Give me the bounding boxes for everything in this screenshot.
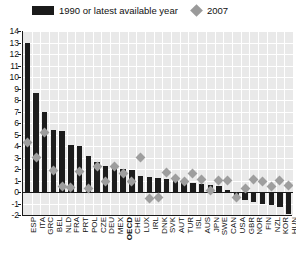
y-tick-mark — [18, 100, 21, 101]
gridline-horizontal — [23, 123, 293, 124]
y-tick-mark — [18, 66, 21, 67]
chart-bar — [199, 184, 204, 192]
gridline-vertical — [276, 31, 277, 215]
chart-bar — [269, 192, 274, 205]
y-tick-mark — [18, 192, 21, 193]
y-tick-mark — [18, 77, 21, 78]
y-tick-mark — [18, 89, 21, 90]
chart-bar — [138, 176, 143, 192]
y-tick-mark — [18, 204, 21, 205]
legend-label-1990: 1990 or latest available year — [59, 5, 178, 16]
chart-bar — [251, 192, 256, 202]
x-tick-label-irl: IRL — [152, 217, 160, 229]
plot-frame — [22, 31, 293, 215]
legend-bar-swatch-icon — [32, 6, 54, 15]
gridline-horizontal — [23, 54, 293, 55]
x-tick-label-aus: AUS — [204, 217, 212, 233]
gridline-horizontal — [23, 43, 293, 44]
gridline-vertical — [232, 31, 233, 215]
legend-entry-1990: 1990 or latest available year — [32, 3, 178, 17]
gridline-horizontal — [23, 31, 293, 32]
x-axis: ESPITAGRCBELNLDFRAPRTPOLCZEDEUMEXOECDCHE… — [22, 217, 292, 257]
y-tick-mark — [18, 123, 21, 124]
chart-legend: 1990 or latest available year 2007 — [0, 0, 296, 22]
gridline-vertical — [258, 31, 259, 215]
y-tick-mark — [18, 158, 21, 159]
chart-bar — [51, 130, 56, 192]
chart-bar — [42, 112, 47, 193]
gridline-horizontal — [23, 77, 293, 78]
y-tick-mark — [18, 43, 21, 44]
x-tick-label-svk: SVK — [169, 217, 177, 233]
x-tick-label-prt: PRT — [82, 217, 90, 233]
chart-bar — [147, 177, 152, 192]
x-tick-label-usa: USA — [239, 217, 247, 233]
gridline-horizontal — [23, 66, 293, 67]
chart-bar — [155, 178, 160, 192]
x-tick-label-pol: POL — [91, 217, 99, 233]
chart-bar — [260, 192, 265, 204]
chart-bar — [286, 192, 291, 214]
x-tick-label-hun: HUN — [291, 217, 296, 234]
y-tick-mark — [18, 146, 21, 147]
x-tick-label-esp: ESP — [30, 217, 38, 233]
y-tick-mark — [18, 54, 21, 55]
y-tick-mark — [18, 31, 21, 32]
chart-bar — [190, 183, 195, 192]
chart-bar — [164, 179, 169, 192]
chart-bar — [33, 93, 38, 192]
legend-label-2007: 2007 — [207, 5, 228, 16]
chart-bar — [25, 43, 30, 193]
x-tick-label-mex: MEX — [117, 217, 125, 234]
y-tick-mark — [18, 135, 21, 136]
y-tick-mark — [18, 181, 21, 182]
gridline-horizontal — [23, 112, 293, 113]
x-tick-label-bel: BEL — [56, 217, 64, 232]
y-tick-mark — [18, 215, 21, 216]
gridline-horizontal — [23, 100, 293, 101]
x-tick-label-fin: FIN — [265, 217, 273, 230]
y-axis: 14131211109876543210-1-2 — [0, 31, 19, 215]
plot-area — [23, 31, 293, 215]
gridline-vertical — [223, 31, 224, 215]
x-tick-label-can: CAN — [230, 217, 238, 234]
y-tick-mark — [18, 169, 21, 170]
legend-diamond-swatch-icon — [190, 4, 203, 17]
gridline-horizontal — [23, 89, 293, 90]
legend-entry-2007: 2007 — [192, 3, 228, 17]
gridline-horizontal — [23, 204, 293, 205]
x-tick-label-aut: AUT — [178, 217, 186, 233]
y-tick-mark — [18, 112, 21, 113]
x-tick-label-lux: LUX — [143, 217, 151, 233]
chart-bar — [277, 192, 282, 207]
